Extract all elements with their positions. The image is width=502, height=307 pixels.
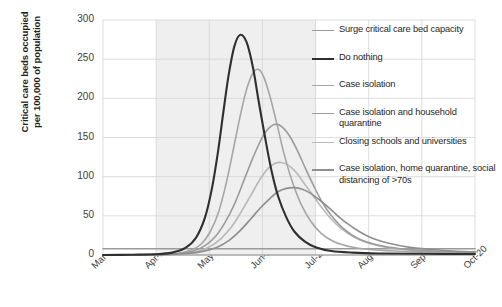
legend-swatch-icon (312, 169, 334, 171)
legend-item[interactable]: Case isolation, home quarantine, social … (312, 163, 498, 186)
legend-item-label: Surge critical care bed capacity (339, 24, 463, 36)
legend-swatch-icon (312, 58, 334, 60)
chart-container: Critical care beds occupied per 100,000 … (0, 0, 502, 307)
legend-swatch-icon (312, 142, 334, 143)
legend-swatch-icon (312, 30, 334, 31)
legend-item[interactable]: Case isolation (312, 79, 498, 91)
legend-item-label: Case isolation, home quarantine, social … (339, 163, 498, 186)
legend-item[interactable]: Closing schools and universities (312, 136, 498, 148)
legend-item-label: Closing schools and universities (339, 136, 467, 148)
legend-item-label: Case isolation (339, 79, 395, 91)
legend-item-label: Case isolation and household quarantine (339, 107, 498, 130)
legend-swatch-icon (312, 85, 334, 86)
chart-legend: Surge critical care bed capacityDo nothi… (312, 24, 498, 192)
legend-item-label: Do nothing (339, 52, 382, 64)
legend-item[interactable]: Case isolation and household quarantine (312, 107, 498, 130)
legend-item[interactable]: Surge critical care bed capacity (312, 24, 498, 36)
legend-item[interactable]: Do nothing (312, 52, 498, 64)
legend-swatch-icon (312, 113, 334, 114)
